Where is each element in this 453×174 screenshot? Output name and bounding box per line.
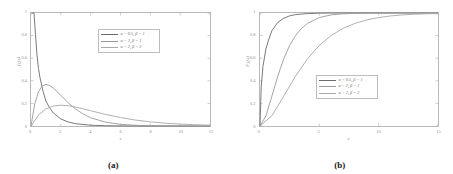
- x-tick-label: 6: [113, 130, 129, 134]
- panel-b: FX(x) 00.20.40.60.81 051015 x α = 0.5, β…: [227, 0, 453, 174]
- legend-label: α = 2, β = 2: [121, 45, 142, 49]
- x-tick-label: 4: [82, 130, 98, 134]
- y-tick-label: 0.4: [235, 79, 256, 83]
- series-line: [260, 14, 438, 126]
- legend-a: α = 0.5, β = 1 α = 2, β = 1 α = 2, β = 2: [98, 29, 160, 53]
- x-tick-label: 12: [203, 130, 219, 134]
- y-tick-label: 0.2: [6, 102, 27, 106]
- y-tick-label: 0.2: [235, 102, 256, 106]
- y-tick-label: 1: [6, 10, 27, 14]
- legend-b: α = 0.5, β = 1 α = 2, β = 1 α = 2, β = 2: [316, 75, 378, 99]
- y-tick-label: 0.6: [6, 56, 27, 60]
- x-tick-label: 10: [371, 130, 387, 134]
- legend-item: α = 2, β = 2: [101, 45, 156, 50]
- legend-item: α = 0.5, β = 1: [101, 32, 156, 37]
- figure-two-panel-gamma-distribution: fX(x) 00.20.40.60.81 024681012 x α = 0.5…: [0, 0, 453, 174]
- legend-item: α = 2, β = 2: [319, 91, 374, 96]
- legend-label: α = 2, β = 2: [339, 91, 360, 95]
- x-tick-label: 8: [143, 130, 159, 134]
- x-axis-label-a: x: [30, 136, 211, 141]
- legend-label: α = 2, β = 1: [121, 39, 142, 43]
- legend-swatch-line: [101, 34, 118, 35]
- x-tick-label: 5: [311, 130, 327, 134]
- plot-area-a: fX(x) 00.20.40.60.81 024681012 x α = 0.5…: [0, 0, 227, 150]
- series-line: [260, 13, 438, 126]
- x-tick-label: 0: [22, 130, 38, 134]
- legend-swatch-line: [319, 93, 336, 94]
- legend-label: α = 2, β = 1: [339, 84, 360, 88]
- y-tick-label: 0.8: [235, 33, 256, 37]
- legend-swatch-line: [319, 86, 336, 87]
- panel-a: fX(x) 00.20.40.60.81 024681012 x α = 0.5…: [0, 0, 227, 174]
- legend-swatch-line: [319, 80, 336, 81]
- x-tick-label: 2: [52, 130, 68, 134]
- legend-swatch-line: [101, 47, 118, 48]
- legend-item: α = 0.5, β = 1: [319, 78, 374, 83]
- legend-label: α = 0.5, β = 1: [339, 78, 363, 82]
- y-tick-label: 0.4: [6, 79, 27, 83]
- x-tick-label: 10: [173, 130, 189, 134]
- curves-svg-b: [260, 13, 438, 126]
- y-tick-label: 1: [235, 10, 256, 14]
- axes-box-b: [259, 12, 439, 127]
- legend-item: α = 2, β = 1: [319, 84, 374, 89]
- panel-caption-a: (a): [0, 160, 227, 170]
- y-tick-label: 0.8: [6, 33, 27, 37]
- plot-area-b: FX(x) 00.20.40.60.81 051015 x α = 0.5, β…: [227, 0, 453, 150]
- x-tick-label: 15: [431, 130, 447, 134]
- x-tick-label: 0: [251, 130, 267, 134]
- series-line: [31, 105, 210, 126]
- y-tick-label: 0.6: [235, 56, 256, 60]
- x-axis-label-b: x: [259, 136, 439, 141]
- legend-swatch-line: [101, 41, 118, 42]
- legend-item: α = 2, β = 1: [101, 39, 156, 44]
- legend-label: α = 0.5, β = 1: [121, 32, 145, 36]
- panel-caption-b: (b): [227, 160, 453, 170]
- x-axis-label-text-b: x: [347, 136, 349, 141]
- series-line: [260, 13, 438, 126]
- x-axis-label-text-a: x: [119, 136, 121, 141]
